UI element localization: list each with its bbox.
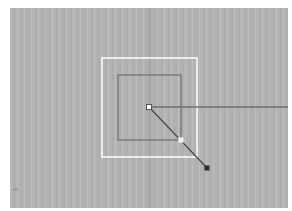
midpoint-handle[interactable] (179, 138, 184, 143)
cad-viewport[interactable] (10, 8, 288, 208)
end-point-handle[interactable] (205, 166, 210, 171)
center-point-handle[interactable] (147, 105, 152, 110)
diagonal-ray[interactable] (149, 107, 207, 168)
viewport-canvas[interactable] (10, 8, 288, 208)
